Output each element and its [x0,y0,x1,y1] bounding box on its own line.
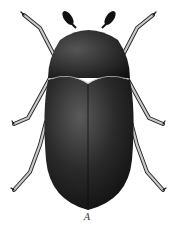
figure-label: A [84,212,91,222]
antenna-left [60,9,76,28]
antenna-right [102,9,118,28]
beetle-illustration [0,0,177,231]
elytra [44,77,133,210]
pronotum [48,30,130,78]
